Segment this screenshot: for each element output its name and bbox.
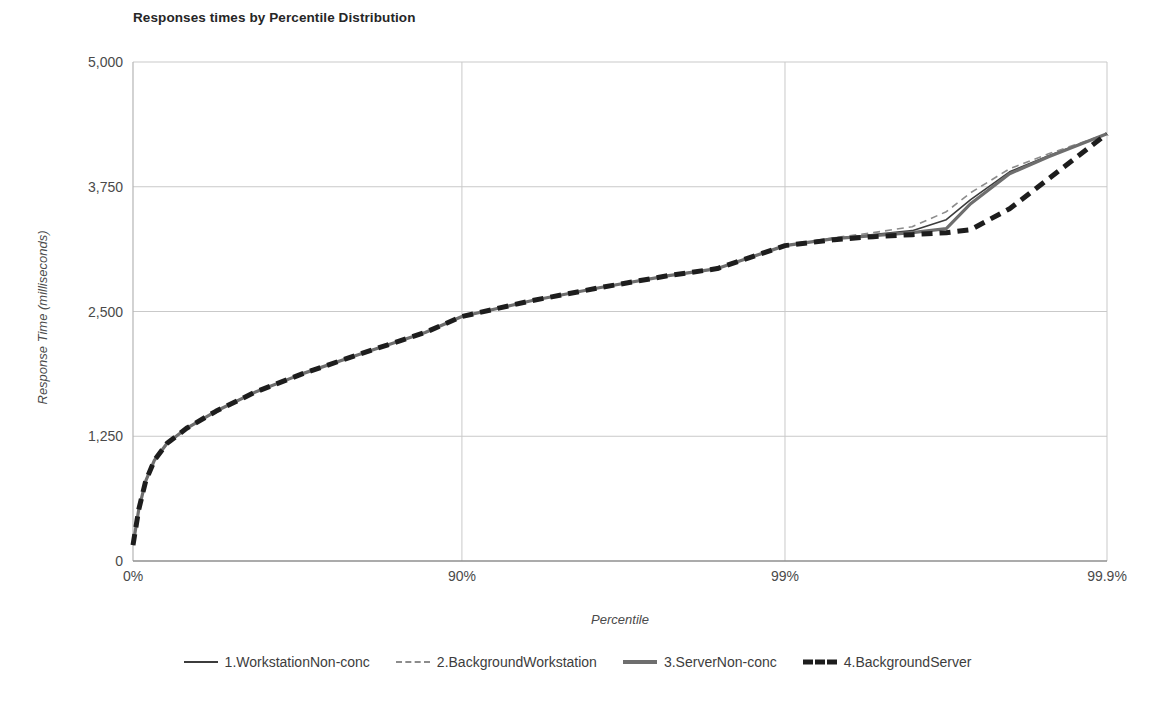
- chart-legend: 1.WorkstationNon-conc2.BackgroundWorksta…: [0, 655, 1155, 669]
- legend-label: 4.BackgroundServer: [844, 655, 972, 669]
- plot-area: [0, 0, 1155, 718]
- chart-container: Responses times by Percentile Distributi…: [0, 0, 1155, 718]
- legend-line-icon: [396, 656, 430, 668]
- series-line: [133, 134, 1107, 545]
- legend-item[interactable]: 4.BackgroundServer: [803, 655, 972, 669]
- legend-label: 3.ServerNon-conc: [664, 655, 777, 669]
- series-line: [133, 134, 1107, 545]
- series-line: [133, 134, 1107, 545]
- legend-line-icon: [184, 656, 218, 668]
- legend-item[interactable]: 1.WorkstationNon-conc: [184, 655, 370, 669]
- legend-line-icon: [623, 656, 657, 668]
- legend-line-icon: [803, 656, 837, 668]
- legend-item[interactable]: 3.ServerNon-conc: [623, 655, 777, 669]
- series-line: [133, 134, 1107, 545]
- x-axis-title: Percentile: [133, 612, 1107, 627]
- legend-item[interactable]: 2.BackgroundWorkstation: [396, 655, 597, 669]
- legend-label: 2.BackgroundWorkstation: [437, 655, 597, 669]
- legend-label: 1.WorkstationNon-conc: [225, 655, 370, 669]
